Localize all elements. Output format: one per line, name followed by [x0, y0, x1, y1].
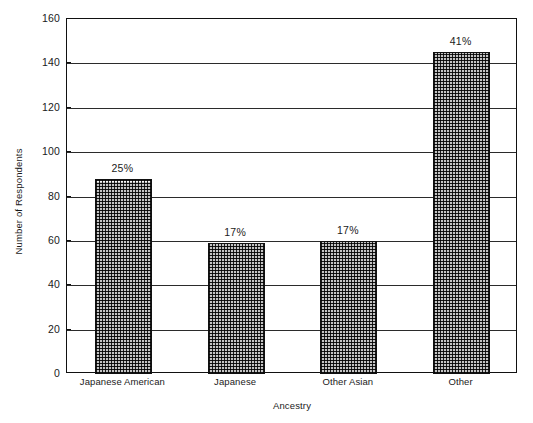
y-axis-tick-label: 160 — [14, 12, 60, 24]
y-axis-tick-mark — [66, 284, 71, 285]
bar — [208, 243, 265, 374]
bar-value-label: 25% — [82, 162, 162, 174]
y-axis-tick-label: 40 — [14, 278, 60, 290]
y-axis-tick-label: 20 — [14, 323, 60, 335]
y-axis-tick-mark — [66, 240, 71, 241]
bar-value-label: 17% — [308, 224, 388, 236]
bar-value-label: 41% — [421, 35, 501, 47]
bar-value-label: 17% — [195, 226, 275, 238]
plot-area — [66, 18, 517, 373]
y-axis-tick-label: 100 — [14, 145, 60, 157]
y-axis-tick-label: 120 — [14, 101, 60, 113]
x-axis-category-label: Other — [386, 376, 533, 387]
y-axis-tick-label: 140 — [14, 56, 60, 68]
y-axis-tick-label: 80 — [14, 190, 60, 202]
bar — [433, 52, 490, 374]
y-axis-tick-mark — [66, 196, 71, 197]
plot-inner — [67, 19, 516, 372]
x-axis-title: Ancestry — [66, 400, 518, 411]
y-axis-tick-mark — [66, 62, 71, 63]
y-axis-tick-mark — [66, 151, 71, 152]
bar — [320, 241, 377, 374]
bar — [95, 179, 152, 374]
y-axis-tick-label: 60 — [14, 234, 60, 246]
y-axis-tick-mark — [66, 329, 71, 330]
bar-chart: Number of Respondents 020406080100120140… — [0, 0, 533, 423]
y-axis-tick-labels: 020406080100120140160 — [12, 18, 60, 373]
y-axis-tick-mark — [66, 107, 71, 108]
